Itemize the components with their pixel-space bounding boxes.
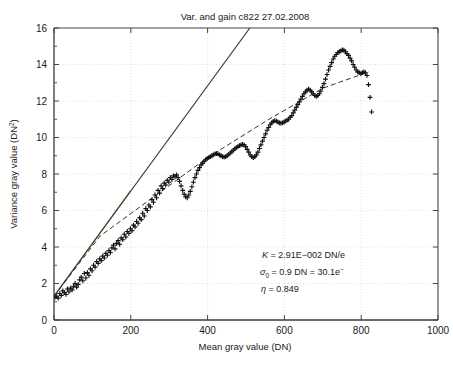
y-tick-label: 10 [36, 132, 48, 143]
y-axis-label: Variance gray value (DN2) [8, 119, 19, 229]
x-tick-label: 0 [51, 325, 57, 336]
gain-annotation: K = 2.91E−002 DN/e [262, 250, 345, 260]
x-tick-label: 800 [353, 325, 370, 336]
y-tick-label: 12 [36, 96, 48, 107]
chart-title: Var. and gain c822 27.02.2008 [181, 11, 310, 22]
x-tick-label: 400 [199, 325, 216, 336]
y-tick-label: 16 [36, 23, 48, 34]
x-axis-label: Mean gray value (DN) [199, 341, 292, 352]
variance-gain-plot: Var. and gain c822 27.02.2008 0200400600… [0, 0, 453, 368]
y-tick-label: 6 [41, 205, 47, 216]
x-tick-label: 200 [122, 325, 139, 336]
figure-container: Var. and gain c822 27.02.2008 0200400600… [0, 0, 453, 368]
eta-annotation: η = 0.849 [261, 284, 299, 294]
x-tick-label: 1000 [427, 325, 450, 336]
y-tick-label: 2 [41, 278, 47, 289]
y-tick-label: 0 [41, 315, 47, 326]
plot-background [0, 0, 453, 368]
x-tick-label: 600 [276, 325, 293, 336]
y-tick-label: 8 [41, 169, 47, 180]
y-tick-label: 4 [41, 242, 47, 253]
y-tick-label: 14 [36, 59, 48, 70]
